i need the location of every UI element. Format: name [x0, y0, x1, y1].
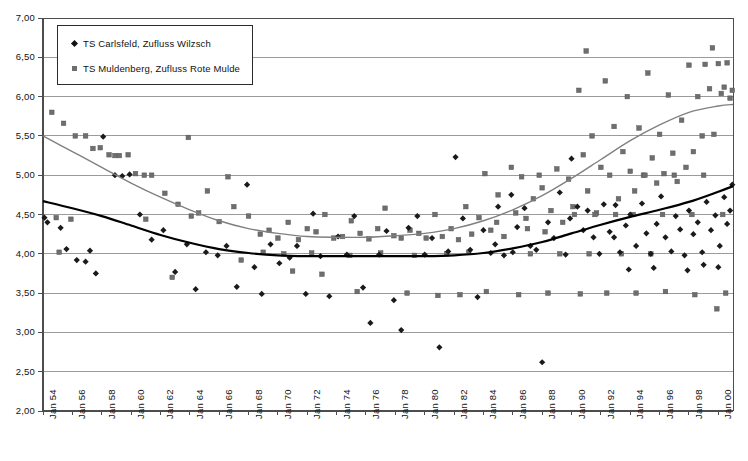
legend-item-muldenberg: TS Muldenberg, Zufluss Rote Mulde — [72, 63, 240, 74]
legend-label-carlsfeld: TS Carlsfeld, Zufluss Wilzsch — [83, 38, 211, 49]
y-axis-tick-label: 3,50 — [0, 287, 35, 298]
legend-item-carlsfeld: TS Carlsfeld, Zufluss Wilzsch — [72, 38, 211, 49]
x-axis-tick-label: Jan 66 — [223, 389, 234, 419]
chart-container: 7,006,506,005,505,004,504,003,503,002,50… — [0, 0, 748, 461]
series-carlsfeld-points — [41, 134, 735, 366]
x-axis-tick-label: Jan 00 — [722, 389, 733, 419]
y-axis-tick-label: 5,00 — [0, 169, 35, 180]
x-axis-tick-label: Jan 56 — [76, 389, 87, 419]
x-axis-tick-label: Jan 70 — [282, 389, 293, 419]
legend-label-muldenberg: TS Muldenberg, Zufluss Rote Mulde — [83, 63, 240, 74]
x-axis-tick-label: Jan 62 — [164, 389, 175, 419]
y-axis-tick-label: 7,00 — [0, 12, 35, 23]
chart-legend: TS Carlsfeld, Zufluss Wilzsch TS Muldenb… — [57, 25, 253, 85]
y-axis-tick-label: 6,00 — [0, 91, 35, 102]
x-axis-tick-label: Jan 98 — [693, 389, 704, 419]
x-axis-tick-label: Jan 64 — [194, 389, 205, 419]
x-axis-tick-label: Jan 88 — [546, 389, 557, 419]
y-axis-tick-label: 3,00 — [0, 326, 35, 337]
x-axis-tick-label: Jan 74 — [341, 389, 352, 419]
y-axis-tick-label: 5,50 — [0, 130, 35, 141]
y-axis-tick-label: 6,50 — [0, 51, 35, 62]
x-axis-tick-label: Jan 96 — [664, 389, 675, 419]
x-axis-tick-label: Jan 82 — [458, 389, 469, 419]
y-axis-tick-label: 2,00 — [0, 405, 35, 416]
diamond-marker-icon — [71, 40, 78, 47]
x-axis-tick-label: Jan 92 — [605, 389, 616, 419]
square-marker-icon — [72, 66, 77, 71]
x-axis-tick-label: Jan 54 — [47, 389, 58, 419]
y-axis-tick-label: 2,50 — [0, 366, 35, 377]
x-axis-tick-label: Jan 80 — [429, 389, 440, 419]
x-axis-tick-label: Jan 72 — [311, 389, 322, 419]
x-axis-tick-label: Jan 86 — [517, 389, 528, 419]
series-muldenberg-points — [50, 46, 735, 312]
x-axis-tick-label: Jan 84 — [487, 389, 498, 419]
x-axis-tick-label: Jan 60 — [135, 389, 146, 419]
x-axis-tick-label: Jan 76 — [370, 389, 381, 419]
x-axis-tick-label: Jan 78 — [399, 389, 410, 419]
y-axis-tick-label: 4,50 — [0, 209, 35, 220]
x-axis-tick-label: Jan 94 — [634, 389, 645, 419]
x-axis-tick-label: Jan 58 — [106, 389, 117, 419]
x-axis-tick-label: Jan 68 — [253, 389, 264, 419]
x-axis-tick-label: Jan 90 — [576, 389, 587, 419]
y-axis-ticks — [38, 18, 43, 411]
y-axis-tick-label: 4,00 — [0, 248, 35, 259]
